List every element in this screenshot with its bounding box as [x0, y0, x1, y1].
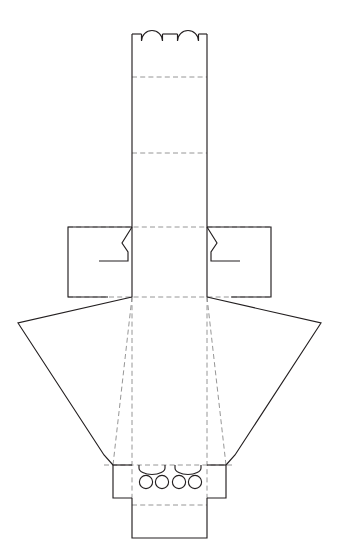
- right-side-flap-fill: [207, 227, 271, 297]
- base-band-fill: [113, 465, 226, 498]
- ventilation-hole-1: [139, 475, 152, 488]
- center-column-fill: [132, 34, 207, 465]
- bottom-panel-fill: [132, 498, 207, 538]
- left-side-flap-fill: [68, 227, 132, 297]
- ventilation-hole-4: [188, 475, 201, 488]
- ventilation-hole-3: [172, 475, 185, 488]
- ventilation-hole-2: [155, 475, 168, 488]
- dieline-drawing: [0, 0, 338, 550]
